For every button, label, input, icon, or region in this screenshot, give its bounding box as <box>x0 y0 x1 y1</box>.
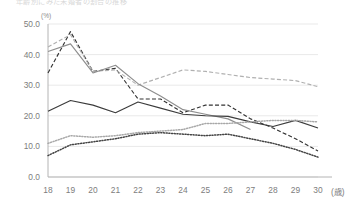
series-line-dark-solid-low <box>48 101 318 129</box>
x-axis-tick-label: 23 <box>150 185 172 195</box>
y-axis-tick-label: 30.0 <box>8 80 40 90</box>
x-axis-tick-label: 27 <box>240 185 262 195</box>
x-axis-tick-label: 25 <box>195 185 217 195</box>
y-axis-tick-label: 20.0 <box>8 111 40 121</box>
x-axis-tick-label: 28 <box>262 185 284 195</box>
x-axis-tick-label: 26 <box>217 185 239 195</box>
x-axis-tick-label: 20 <box>82 185 104 195</box>
x-axis-tick-label: 19 <box>60 185 82 195</box>
y-axis-tick-label: 0.0 <box>8 172 40 182</box>
y-axis-tick-label: 40.0 <box>8 50 40 60</box>
x-axis-tick-label: 24 <box>172 185 194 195</box>
series-line-gray-dashed-upper <box>48 35 318 87</box>
x-axis-tick-label: 29 <box>285 185 307 195</box>
series-line-dark-dashed-peak <box>48 32 318 151</box>
y-axis-tick-label: 10.0 <box>8 141 40 151</box>
series-line-gray-dotted-bottom <box>48 120 318 143</box>
x-axis-unit-label: (歳) <box>331 185 345 197</box>
x-axis-tick-label: 21 <box>105 185 127 195</box>
x-axis-tick-label: 18 <box>37 185 59 195</box>
y-axis-tick-label: 50.0 <box>8 19 40 29</box>
x-axis-tick-label: 22 <box>127 185 149 195</box>
x-axis-tick-label: 30 <box>307 185 329 195</box>
